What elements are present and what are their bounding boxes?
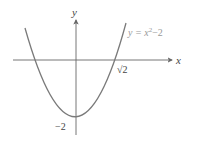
curve-label: y = x2−2 — [127, 26, 163, 38]
parabola-chart: y x √2 −2 y = x2−2 — [0, 0, 200, 145]
parabola-curve — [25, 23, 126, 117]
root-label: √2 — [117, 64, 128, 75]
intercept-label: −2 — [55, 121, 66, 132]
x-axis-label: x — [175, 54, 181, 66]
y-axis-label: y — [71, 6, 77, 18]
